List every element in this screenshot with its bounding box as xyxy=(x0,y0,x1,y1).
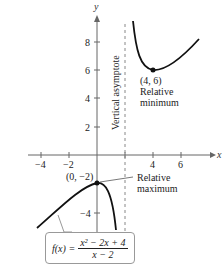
y-tick-label: 4 xyxy=(85,93,90,104)
formula-box: f(x) = x² − 2x + 4 x − 2 xyxy=(45,232,135,264)
x-tick-label: −2 xyxy=(63,159,74,170)
relative-minimum-point xyxy=(151,68,156,73)
min-text-1: Relative xyxy=(140,86,174,97)
min-text-2: minimum xyxy=(140,97,179,108)
curve-left-branch xyxy=(37,183,116,230)
y-tick-label: 2 xyxy=(85,122,90,133)
max-text-1: Relative xyxy=(137,172,171,183)
max-leader-line xyxy=(100,177,133,182)
asymptote-label: Vertical asymptote xyxy=(110,55,121,130)
formula-denominator: x − 2 xyxy=(92,249,113,260)
y-tick-label: 8 xyxy=(85,37,90,48)
relative-maximum-point xyxy=(95,181,100,186)
formula-numerator: x² − 2x + 4 xyxy=(78,237,127,249)
x-tick-label: 6 xyxy=(178,159,183,170)
x-axis-label: x xyxy=(216,149,222,160)
x-tick-label: 4 xyxy=(150,159,155,170)
y-axis-arrow-icon xyxy=(94,15,100,22)
max-point-label: (0, −2) xyxy=(66,171,93,183)
formula-fraction: x² − 2x + 4 x − 2 xyxy=(78,237,127,260)
x-tick-label: −4 xyxy=(35,159,46,170)
y-axis-label: y xyxy=(93,1,99,12)
x-axis-arrow-icon xyxy=(210,152,216,158)
y-tick-label: 6 xyxy=(85,65,90,76)
y-tick-label: −4 xyxy=(80,208,91,219)
max-text-2: maximum xyxy=(137,183,178,194)
formula-callout-pointer xyxy=(58,215,72,232)
curve-right-branch xyxy=(133,21,199,70)
formula-lhs: f(x) = xyxy=(52,243,75,254)
